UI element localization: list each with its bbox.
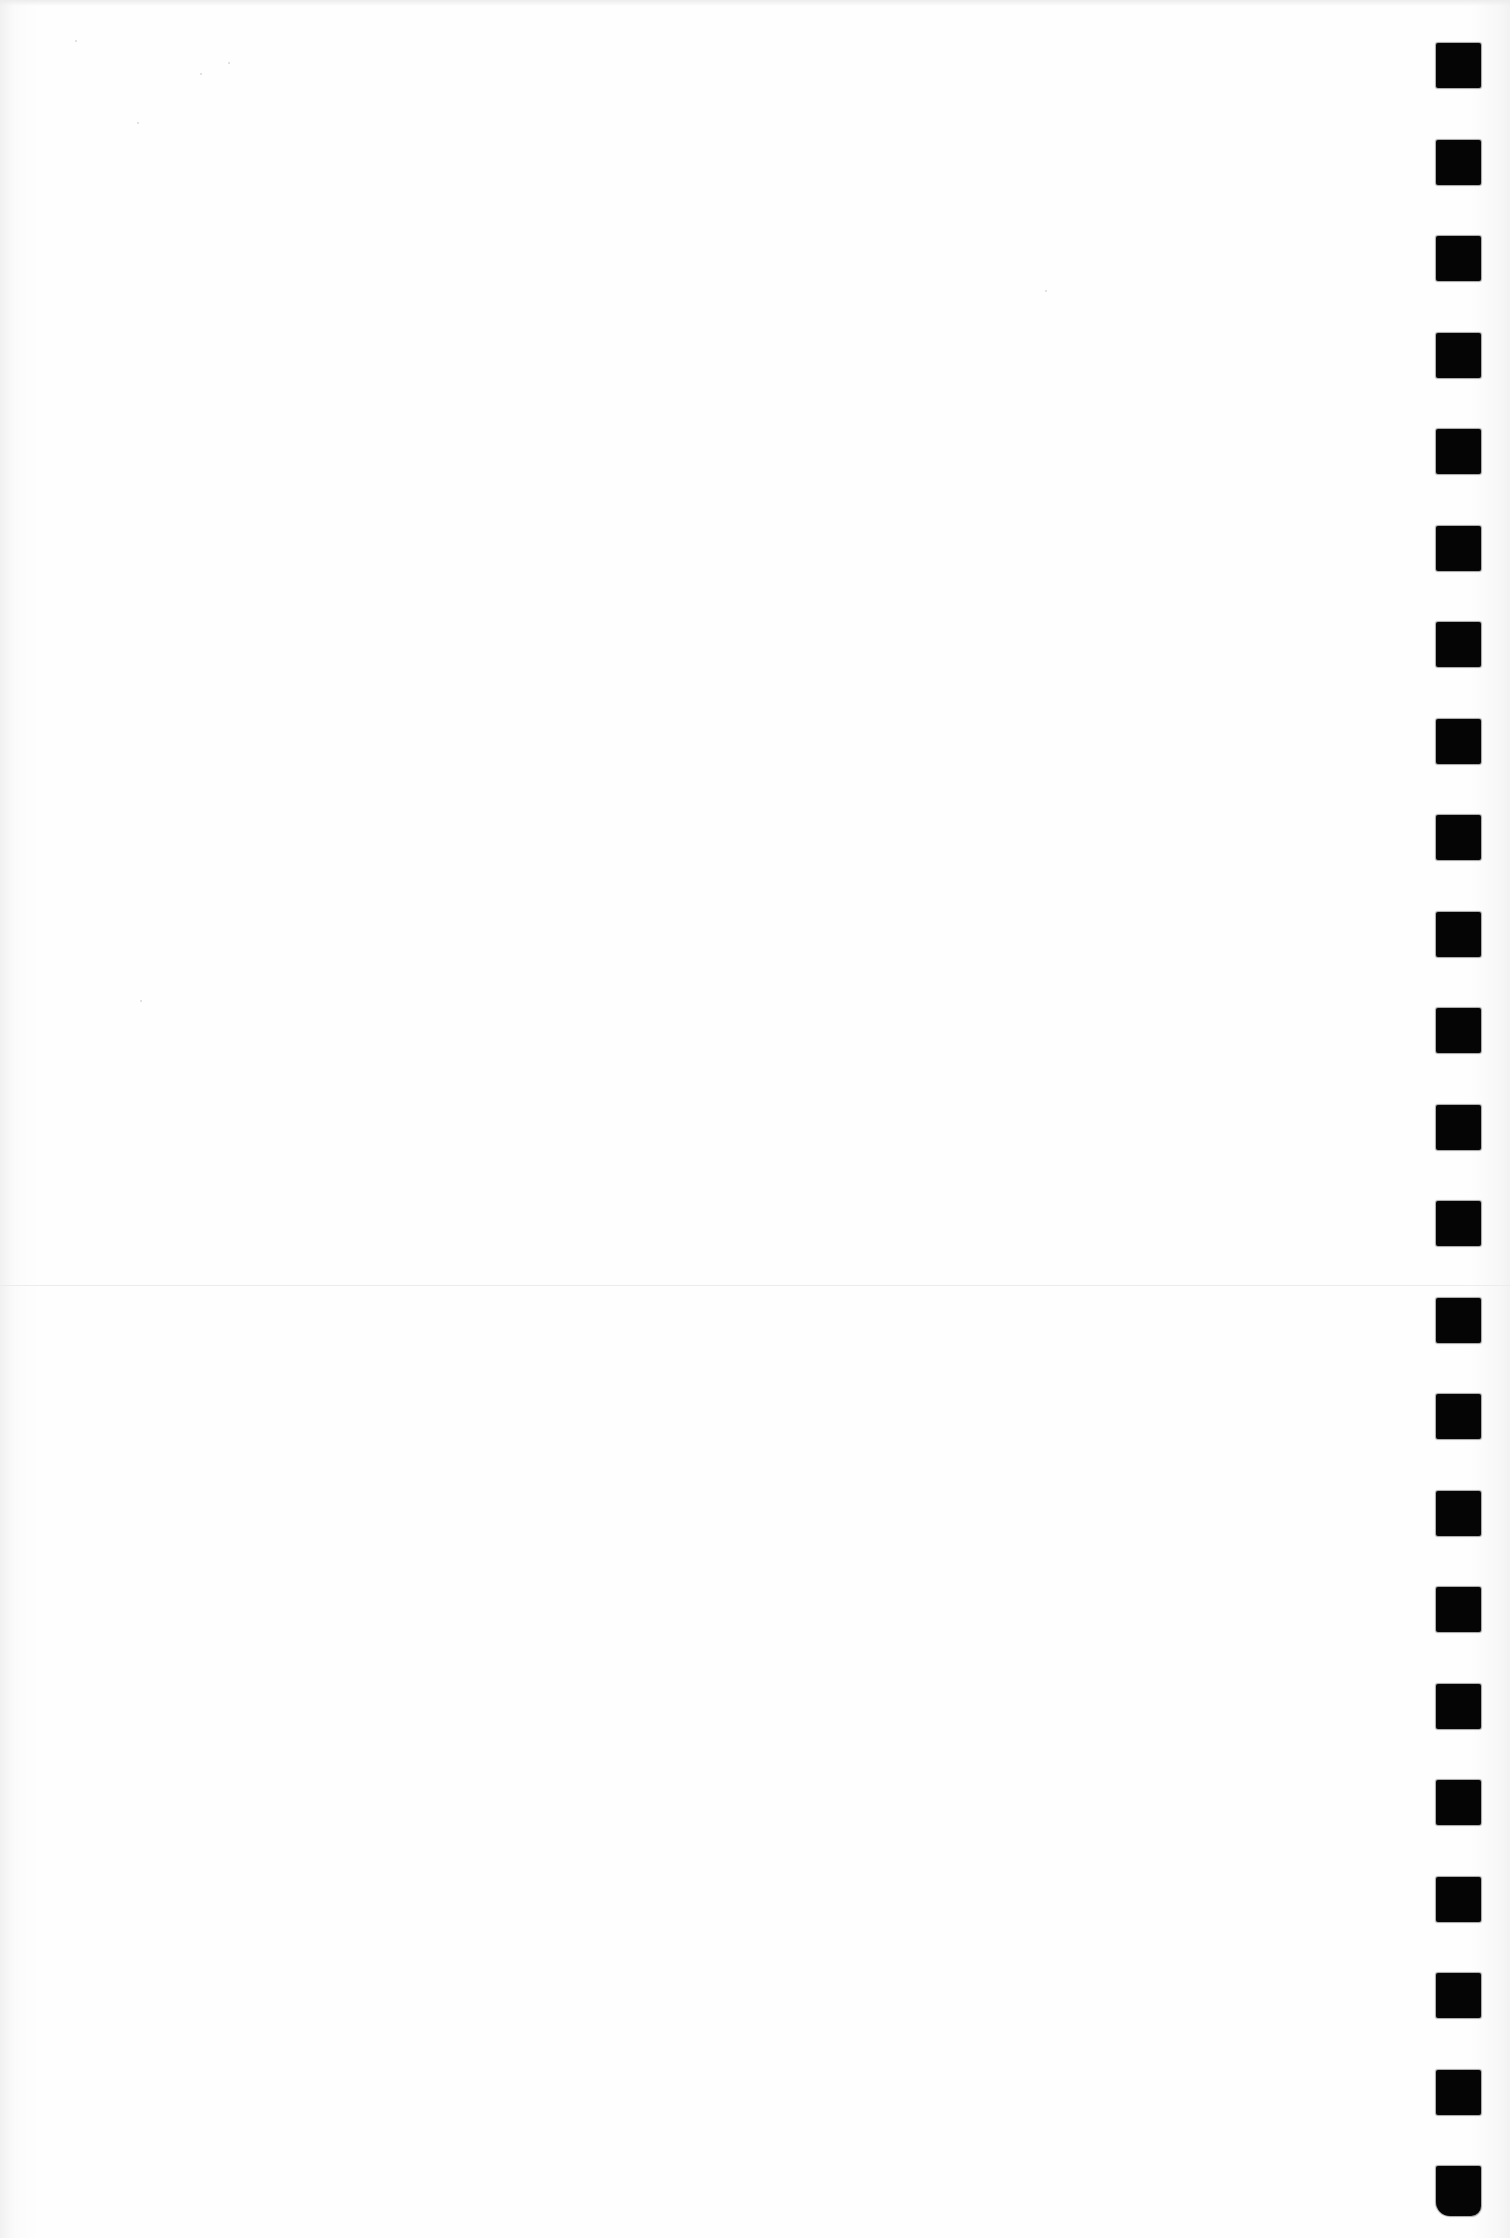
binding-hole bbox=[1436, 1684, 1481, 1729]
fold-line bbox=[0, 1285, 1510, 1286]
binding-hole bbox=[1436, 140, 1481, 185]
binding-hole-column bbox=[1436, 0, 1482, 2238]
binding-hole bbox=[1436, 1298, 1481, 1343]
binding-hole bbox=[1436, 1491, 1481, 1536]
binding-hole bbox=[1436, 429, 1481, 474]
binding-hole bbox=[1436, 1780, 1481, 1825]
binding-hole bbox=[1436, 1201, 1481, 1246]
binding-hole bbox=[1436, 1394, 1481, 1439]
paper-speck bbox=[140, 1000, 142, 1002]
binding-hole bbox=[1436, 622, 1481, 667]
paper-speck bbox=[75, 40, 77, 42]
paper-speck bbox=[137, 122, 139, 124]
binding-hole bbox=[1436, 1008, 1481, 1053]
binding-hole bbox=[1436, 815, 1481, 860]
binding-hole bbox=[1436, 333, 1481, 378]
page-top-edge bbox=[0, 0, 1510, 6]
binding-hole bbox=[1436, 1587, 1481, 1632]
binding-hole bbox=[1436, 912, 1481, 957]
binding-hole bbox=[1436, 1105, 1481, 1150]
paper-speck bbox=[200, 73, 202, 75]
paper-speck bbox=[228, 62, 230, 64]
paper-speck bbox=[1045, 290, 1047, 292]
binding-hole bbox=[1436, 2070, 1481, 2115]
binding-hole bbox=[1436, 236, 1481, 281]
binding-hole bbox=[1436, 526, 1481, 571]
binding-hole bbox=[1436, 43, 1481, 88]
binding-hole bbox=[1436, 2166, 1481, 2216]
binding-hole bbox=[1436, 1973, 1481, 2018]
binding-hole bbox=[1436, 1877, 1481, 1922]
blank-page bbox=[0, 0, 1510, 2238]
binding-hole bbox=[1436, 719, 1481, 764]
